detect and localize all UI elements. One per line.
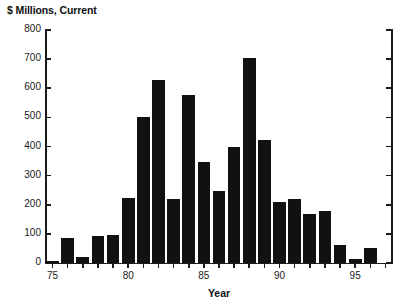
bar (167, 199, 180, 263)
bar (319, 211, 332, 263)
y-tick-label: 700 (5, 52, 45, 63)
x-tick (173, 263, 175, 268)
x-tick (158, 263, 160, 268)
bar (288, 199, 301, 263)
bar (152, 80, 165, 263)
x-tick-label: 95 (340, 270, 370, 281)
bars-group (45, 30, 393, 263)
bar (228, 147, 241, 264)
y-tick-label: 100 (5, 227, 45, 238)
bar (61, 238, 74, 263)
x-tick (385, 263, 387, 268)
bar (364, 248, 377, 263)
x-tick (339, 263, 341, 268)
x-tick (354, 263, 356, 268)
bar (334, 245, 347, 263)
x-tick (97, 263, 99, 268)
bar (107, 235, 120, 263)
x-tick (143, 263, 145, 268)
y-tick-label: 400 (5, 140, 45, 151)
x-tick (233, 263, 235, 268)
x-tick (294, 263, 296, 268)
x-tick (112, 263, 114, 268)
y-axis-title: $ Millions, Current (7, 4, 97, 16)
x-tick (67, 263, 69, 268)
bar (122, 198, 135, 263)
bar (182, 95, 195, 263)
x-tick (279, 263, 281, 268)
x-tick-label: 75 (38, 270, 68, 281)
y-tick-label: 800 (5, 23, 45, 34)
bar (243, 58, 256, 263)
bar (258, 140, 271, 263)
x-tick-label: 90 (265, 270, 295, 281)
bar (46, 261, 59, 263)
x-tick (218, 263, 220, 268)
y-tick-label: 600 (5, 81, 45, 92)
bar (303, 214, 316, 263)
y-tick-label: 0 (5, 256, 45, 267)
x-tick-label: 80 (113, 270, 143, 281)
x-tick (324, 263, 326, 268)
bar (137, 117, 150, 263)
x-tick (52, 263, 54, 268)
x-tick (203, 263, 205, 268)
x-axis-title: Year (45, 287, 393, 299)
x-tick (82, 263, 84, 268)
bar (92, 236, 105, 263)
y-tick-label: 200 (5, 198, 45, 209)
x-tick (127, 263, 129, 268)
bar (198, 162, 211, 263)
x-tick (370, 263, 372, 268)
x-tick (248, 263, 250, 268)
x-tick-label: 85 (189, 270, 219, 281)
bar-chart: $ Millions, Current 01002003004005006007… (0, 0, 417, 305)
y-tick-label: 300 (5, 169, 45, 180)
bar (213, 191, 226, 263)
bar (349, 259, 362, 263)
x-tick (309, 263, 311, 268)
x-tick (188, 263, 190, 268)
y-tick-label: 500 (5, 110, 45, 121)
bar (273, 202, 286, 263)
x-tick (264, 263, 266, 268)
bar (76, 257, 89, 263)
